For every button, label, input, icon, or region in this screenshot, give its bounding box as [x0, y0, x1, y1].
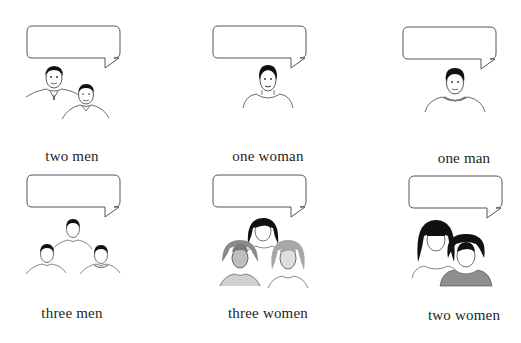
- speech-bubble[interactable]: [408, 175, 508, 221]
- caption: three men: [41, 305, 102, 322]
- one-woman-illustration: [240, 64, 296, 112]
- caption: one man: [438, 150, 491, 167]
- three-men-illustration: [26, 216, 126, 288]
- caption: two women: [428, 307, 500, 324]
- caption: two men: [45, 148, 98, 165]
- two-men-illustration: [24, 64, 124, 124]
- caption: one woman: [232, 148, 303, 165]
- speech-bubble[interactable]: [26, 174, 126, 220]
- one-man-illustration: [422, 66, 488, 114]
- two-women-illustration: [410, 216, 502, 288]
- three-women-illustration: [218, 214, 312, 294]
- caption: three women: [228, 305, 308, 322]
